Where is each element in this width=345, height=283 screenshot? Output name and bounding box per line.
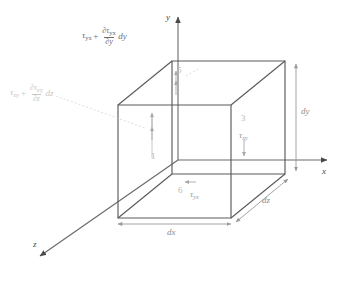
eq1-base: τyx — [82, 31, 92, 42]
equation-tau-yx-increment: τyx + ∂τyx ∂y dy — [82, 27, 127, 46]
dy-label: dy — [301, 107, 310, 116]
face-3-stress-label: τxy — [239, 131, 248, 142]
face-6-tau-subscript: yx — [193, 193, 199, 200]
face-3-number: 3 — [241, 114, 246, 123]
tau-zy-leader — [56, 96, 145, 128]
cube-edge-tl — [118, 61, 172, 105]
cube-edge-tr — [231, 61, 285, 105]
cube-edge-br — [231, 174, 285, 218]
eq1-differential: dy — [118, 32, 127, 41]
face-5-number: 5 — [177, 66, 182, 75]
face-3-tau-subscript: xy — [242, 134, 248, 141]
eq2-fraction: ∂τzy ∂z — [29, 84, 44, 103]
z-axis-line — [40, 160, 178, 256]
axis-group — [40, 17, 327, 256]
equation-tau-zy-increment: τzy + ∂τzy ∂z dz — [10, 84, 53, 103]
y-axis-label: y — [166, 13, 170, 22]
figure-canvas: τyx + ∂τyx ∂y dy τzy + ∂τzy ∂z dz y x z … — [0, 0, 345, 283]
z-axis-label: z — [33, 240, 37, 249]
eq1-operator: + — [93, 32, 98, 41]
face-6-number: 6 — [178, 186, 183, 195]
eq2-operator: + — [21, 89, 26, 98]
eq2-denominator: ∂z — [32, 94, 41, 103]
dx-label: dx — [167, 228, 176, 237]
eq2-numerator: ∂τzy — [29, 84, 44, 94]
eq1-fraction: ∂τyx ∂y — [101, 27, 116, 46]
x-axis-label: x — [322, 167, 326, 176]
eq2-differential: dz — [45, 89, 53, 98]
cube-wireframe — [118, 61, 285, 218]
face-1-number: 1 — [151, 152, 156, 161]
stress-element-svg — [0, 0, 345, 283]
dz-label: dz — [262, 196, 270, 205]
eq2-base: τzy — [10, 88, 19, 99]
face-5-leader — [186, 68, 200, 76]
face-6-stress-label: τyx — [190, 190, 199, 201]
cube-back-face — [172, 61, 285, 174]
eq1-denominator: ∂y — [104, 37, 114, 46]
stress-arrows — [152, 71, 244, 182]
eq1-numerator: ∂τyx — [101, 27, 116, 37]
cube-front-face — [118, 105, 231, 218]
